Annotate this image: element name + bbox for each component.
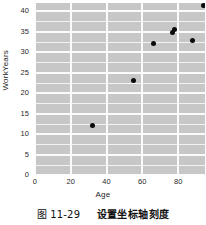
data-point xyxy=(172,27,177,32)
x-axis-tick-label: 60 xyxy=(130,178,154,186)
caption-number: 图 11-29 xyxy=(37,209,81,220)
y-axis-tick-label: 20 xyxy=(7,89,29,97)
gridline-horizontal-minor xyxy=(35,21,205,22)
y-axis-tick-label: 10 xyxy=(7,130,29,138)
data-point xyxy=(90,123,95,128)
data-point xyxy=(151,41,156,46)
y-axis-tick-label: 35 xyxy=(7,28,29,36)
x-axis-tick-label: 40 xyxy=(95,178,119,186)
y-axis-tick-label: 30 xyxy=(7,48,29,56)
data-point xyxy=(201,3,205,8)
caption-text: 设置坐标轴刻度 xyxy=(97,209,170,220)
gridline-horizontal xyxy=(35,92,205,94)
gridline-horizontal xyxy=(35,51,205,53)
gridline-vertical xyxy=(106,3,108,175)
x-axis-tick-label: 80 xyxy=(166,178,190,186)
x-axis-label: Age xyxy=(0,190,206,199)
gridline-horizontal-minor xyxy=(35,62,205,63)
gridline-horizontal xyxy=(35,10,205,12)
gridline-horizontal-minor xyxy=(35,144,205,145)
y-axis-tick-label: 25 xyxy=(7,69,29,77)
gridline-horizontal-minor xyxy=(35,42,205,43)
gridline-vertical xyxy=(35,3,36,175)
gridline-horizontal xyxy=(35,133,205,135)
y-axis-tick-label: 40 xyxy=(7,7,29,15)
x-axis-tick-label: 20 xyxy=(59,178,83,186)
gridline-horizontal-minor xyxy=(35,83,205,84)
gridline-horizontal xyxy=(35,72,205,74)
gridline-vertical xyxy=(177,3,179,175)
gridline-vertical xyxy=(141,3,143,175)
gridline-horizontal xyxy=(35,113,205,115)
y-axis-tick-label: 15 xyxy=(7,110,29,118)
scatter-figure: WorkYears Age 图 11-29 设置坐标轴刻度 0510152025… xyxy=(0,0,206,225)
figure-caption: 图 11-29 设置坐标轴刻度 xyxy=(0,206,206,221)
gridline-horizontal-minor xyxy=(35,124,205,125)
x-axis-tick-label: 0 xyxy=(23,178,47,186)
gridline-horizontal xyxy=(35,174,205,175)
gridline-horizontal-minor xyxy=(35,165,205,166)
gridline-horizontal-minor xyxy=(35,103,205,104)
y-axis-tick-label: 5 xyxy=(7,151,29,159)
gridline-horizontal xyxy=(35,31,205,33)
plot-area xyxy=(35,3,205,175)
gridline-horizontal xyxy=(35,154,205,156)
gridline-vertical xyxy=(70,3,72,175)
